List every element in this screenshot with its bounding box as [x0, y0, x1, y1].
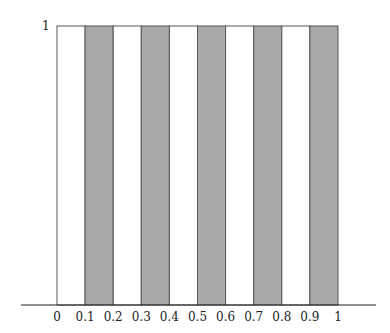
x-tick-label: 0.1: [76, 310, 95, 324]
x-tick-labels: 00.10.20.30.40.50.60.70.80.91: [53, 310, 342, 324]
bar-gray: [254, 26, 282, 305]
bar-gray: [310, 26, 338, 305]
x-tick-label: 0.8: [272, 310, 291, 324]
x-tick-label: 0.6: [216, 310, 235, 324]
x-tick-label: 1: [334, 310, 342, 324]
y-tick-label: 1: [42, 19, 50, 33]
bar-white: [226, 26, 254, 305]
striped-bar-chart: 1 00.10.20.30.40.50.60.70.80.91: [0, 0, 390, 333]
bar-white: [57, 26, 85, 305]
x-tick-label: 0.5: [188, 310, 207, 324]
bar-gray: [85, 26, 113, 305]
x-tick-label: 0.2: [104, 310, 123, 324]
x-tick-label: 0.9: [300, 310, 319, 324]
bar-white: [113, 26, 141, 305]
bar-gray: [198, 26, 226, 305]
x-tick-label: 0: [53, 310, 61, 324]
x-tick-label: 0.7: [244, 310, 263, 324]
x-tick-label: 0.4: [160, 310, 179, 324]
bar-white: [282, 26, 310, 305]
bar-white: [169, 26, 197, 305]
x-tick-label: 0.3: [132, 310, 151, 324]
bar-group: [57, 26, 338, 305]
bar-gray: [141, 26, 169, 305]
